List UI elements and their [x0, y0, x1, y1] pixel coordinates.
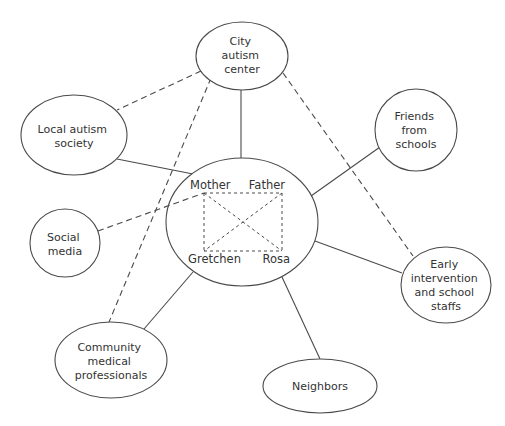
node-city-autism-center: City autism center: [196, 22, 288, 90]
node-friends-from-schools: Friends from schools: [375, 89, 457, 171]
node-label: professionals: [75, 369, 148, 382]
node-label: autism: [221, 49, 259, 62]
node-social-media: Social media: [30, 209, 100, 277]
edge-early-family: [315, 241, 402, 273]
node-label: from: [401, 124, 427, 137]
node-label: Early: [430, 258, 458, 271]
node-label: Community: [77, 341, 141, 354]
node-neighbors: Neighbors: [263, 359, 377, 413]
ecomap-diagram: City autism center Local autism society …: [0, 0, 505, 426]
node-label: Friends: [394, 110, 434, 123]
node-local-autism-society: Local autism society: [21, 95, 127, 175]
node-shape: [166, 158, 318, 286]
node-label: and school: [415, 286, 474, 299]
edge-community-family: [144, 272, 193, 329]
node-label: schools: [396, 138, 437, 151]
node-label: center: [224, 63, 260, 76]
node-label: City: [229, 35, 251, 48]
edge-city-local: [117, 71, 201, 110]
svg-text:Neighbors: Neighbors: [292, 380, 348, 393]
node-label: medical: [88, 355, 131, 368]
edge-neighbors-family: [282, 277, 320, 359]
node-family: Mother Father Gretchen Rosa: [166, 158, 318, 286]
member-label-father: Father: [249, 178, 285, 192]
member-label-mother: Mother: [190, 178, 231, 192]
node-early-intervention: Early intervention and school staffs: [401, 247, 491, 323]
node-label: Social: [47, 231, 80, 244]
member-label-rosa: Rosa: [262, 252, 290, 266]
node-label: staffs: [431, 300, 461, 313]
svg-text:Social media: Social media: [47, 231, 83, 258]
edge-friends-family: [311, 147, 380, 196]
member-label-gretchen: Gretchen: [188, 252, 241, 266]
node-label: media: [48, 245, 82, 258]
node-community-medical-professionals: Community medical professionals: [55, 322, 167, 398]
edge-local-family: [117, 159, 193, 174]
node-label: society: [54, 137, 94, 150]
node-label: Neighbors: [292, 380, 348, 393]
node-label: intervention: [411, 272, 478, 285]
node-label: Local autism: [37, 123, 107, 136]
